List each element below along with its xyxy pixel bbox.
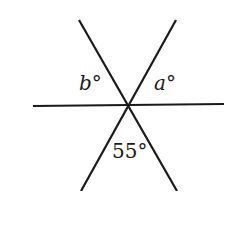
angle-label-a: a° [154, 73, 176, 93]
angle-variable-b: b [79, 71, 92, 95]
degree-symbol: ° [92, 71, 102, 95]
angle-variable-a: a [154, 71, 166, 95]
degree-symbol: ° [166, 71, 176, 95]
angle-value-55: 55° [112, 139, 147, 163]
angle-label-b: b° [79, 73, 102, 93]
angle-label-55: 55° [112, 141, 147, 161]
line-horizontal [33, 104, 224, 106]
